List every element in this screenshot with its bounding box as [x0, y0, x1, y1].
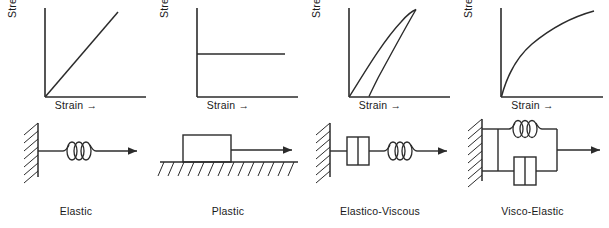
model-plastic — [152, 115, 304, 203]
force-arrow-icon — [591, 146, 600, 154]
wall-hatching-icon — [316, 123, 330, 183]
y-axis-label: Stress → — [310, 0, 324, 18]
caption-visco-elastic: Visco-Elastic — [456, 205, 609, 217]
wall-hatching-icon — [468, 119, 482, 187]
model-visco-elastic-diagram — [456, 115, 609, 203]
chart-visco-elastic: Stress → Strain → — [456, 0, 609, 115]
series-unloading — [369, 10, 416, 97]
caption-plastic: Plastic — [152, 205, 304, 217]
dashpot-icon — [514, 157, 536, 185]
x-axis-arrow-icon: → — [543, 99, 554, 111]
chart-elastico-viscous-plot — [304, 0, 456, 115]
chart-elastic: Stress → Strain → — [0, 0, 152, 115]
force-arrow-icon — [283, 146, 292, 154]
panel-elastico-viscous: Stress → Strain → — [304, 0, 456, 228]
x-axis-arrow-icon: → — [239, 99, 250, 111]
x-axis-arrow-icon: → — [87, 99, 98, 111]
spring-icon — [63, 142, 96, 160]
y-axis-label: Stress → — [6, 0, 20, 18]
ground-hatching-icon — [158, 162, 294, 176]
wall-hatching-icon — [24, 123, 38, 183]
model-elastico-viscous — [304, 115, 456, 203]
model-elastico-viscous-diagram — [304, 115, 456, 203]
dashpot-icon — [347, 137, 369, 165]
x-axis-arrow-icon: → — [391, 99, 402, 111]
chart-plastic: Stress → Strain → — [152, 0, 304, 115]
x-axis-label: Strain → — [0, 99, 152, 111]
chart-elastico-viscous: Stress → Strain → — [304, 0, 456, 115]
y-axis-label: Stress → — [158, 0, 172, 18]
series-loading — [350, 10, 417, 97]
spring-icon — [384, 142, 417, 160]
force-arrow-icon — [438, 147, 447, 155]
rheological-models-figure: Stress → Strain → — [0, 0, 609, 228]
model-elastic-diagram — [0, 115, 152, 203]
panel-elastic: Stress → Strain → — [0, 0, 152, 228]
x-axis-label: Strain → — [152, 99, 304, 111]
y-axis-label: Stress → — [462, 0, 476, 18]
x-axis-label: Strain → — [456, 99, 609, 111]
panel-plastic: Stress → Strain → — [152, 0, 304, 228]
force-arrow-icon — [128, 147, 137, 155]
x-axis-label: Strain → — [304, 99, 456, 111]
model-visco-elastic — [456, 115, 609, 203]
model-elastic — [0, 115, 152, 203]
caption-elastico-viscous: Elastico-Viscous — [304, 205, 456, 217]
series-stress-strain — [46, 12, 119, 97]
friction-block — [183, 135, 231, 162]
caption-elastic: Elastic — [0, 205, 152, 217]
model-plastic-diagram — [152, 115, 304, 203]
panel-visco-elastic: Stress → Strain → — [456, 0, 609, 228]
chart-visco-elastic-plot — [456, 0, 609, 115]
spring-icon — [509, 121, 542, 138]
series-stress-strain — [502, 11, 595, 97]
chart-elastic-plot — [0, 0, 152, 115]
chart-plastic-plot — [152, 0, 304, 115]
